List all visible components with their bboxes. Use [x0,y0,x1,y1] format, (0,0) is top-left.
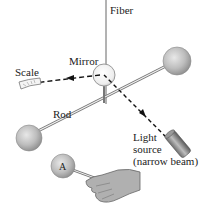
light-source-label-line2: source [133,143,162,155]
fiber-label: Fiber [110,4,134,16]
light-beam-incident [104,75,166,137]
rod-label: Rod [53,108,72,120]
scale [19,78,41,89]
light-source-label-line3: (narrow beam) [133,155,198,168]
torsion-balance-diagram: Fiber Mirror Scale Rod Light source (nar… [0,0,212,213]
scale-label: Scale [15,66,39,78]
sphere-upper-right [163,47,191,75]
light-beam-reflected [34,75,100,83]
sphere-a-label: A [59,161,67,172]
mirror-label: Mirror [69,55,99,67]
sphere-lower-left [16,125,42,151]
light-source-label-line1: Light [133,131,157,143]
hand [86,169,140,202]
